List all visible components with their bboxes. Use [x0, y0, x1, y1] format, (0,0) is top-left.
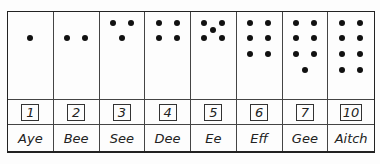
dot — [339, 51, 345, 57]
number-box: 5 — [204, 104, 222, 121]
counting-table: 123456710AyeBeeSeeDeeEeEffGeeAitch — [7, 11, 375, 153]
dots-cell — [191, 12, 237, 100]
dot — [311, 20, 317, 26]
dot — [128, 20, 134, 26]
dot — [219, 35, 225, 41]
dot — [311, 35, 317, 41]
number-cell: 6 — [237, 100, 283, 125]
dots-cell — [54, 12, 100, 100]
dot — [119, 35, 125, 41]
number-cell: 7 — [283, 100, 329, 125]
dot — [302, 67, 308, 73]
dots-cell — [283, 12, 329, 100]
number-cell: 1 — [8, 100, 54, 125]
name-cell: Eff — [237, 125, 283, 151]
number-box: 2 — [67, 104, 85, 121]
name-cell: Ee — [191, 125, 237, 151]
dot — [110, 20, 116, 26]
number-cell: 5 — [191, 100, 237, 125]
dot — [293, 20, 299, 26]
dot — [156, 35, 162, 41]
dot — [247, 20, 253, 26]
number-box: 10 — [340, 104, 363, 121]
name-cell: See — [100, 125, 146, 151]
dot — [293, 35, 299, 41]
dots-cell — [100, 12, 146, 100]
name-cell: Aitch — [328, 125, 374, 151]
number-cell: 10 — [328, 100, 374, 125]
name-cell: Bee — [54, 125, 100, 151]
number-box: 4 — [159, 104, 177, 121]
dot — [357, 35, 363, 41]
dot — [219, 20, 225, 26]
dot — [339, 67, 345, 73]
dot — [247, 35, 253, 41]
number-box: 7 — [296, 104, 314, 121]
dot — [201, 35, 207, 41]
dot — [210, 27, 216, 33]
dot — [265, 51, 271, 57]
dots-cell — [237, 12, 283, 100]
dot — [293, 51, 299, 57]
dots-cell — [145, 12, 191, 100]
name-cell: Dee — [145, 125, 191, 151]
name-cell: Aye — [8, 125, 54, 151]
dot — [201, 20, 207, 26]
number-cell: 3 — [100, 100, 146, 125]
dot — [27, 35, 33, 41]
dot — [265, 20, 271, 26]
dot — [174, 20, 180, 26]
dot — [64, 35, 70, 41]
number-box: 1 — [21, 104, 39, 121]
dot — [265, 35, 271, 41]
dot — [339, 20, 345, 26]
number-cell: 4 — [145, 100, 191, 125]
number-box: 6 — [250, 104, 268, 121]
number-box: 3 — [113, 104, 131, 121]
dot — [339, 35, 345, 41]
dot — [357, 67, 363, 73]
dot — [357, 20, 363, 26]
dot — [156, 20, 162, 26]
dots-cell — [8, 12, 54, 100]
dot — [82, 35, 88, 41]
dot — [311, 51, 317, 57]
dot — [174, 35, 180, 41]
number-cell: 2 — [54, 100, 100, 125]
dot — [247, 51, 253, 57]
name-cell: Gee — [283, 125, 329, 151]
dots-cell — [328, 12, 374, 100]
dot — [357, 51, 363, 57]
